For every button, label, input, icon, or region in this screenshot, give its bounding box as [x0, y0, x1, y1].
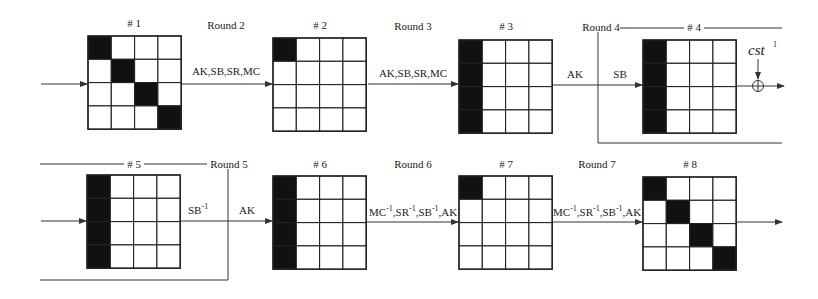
round5-op-sbinv: SB-1 [188, 202, 208, 216]
state-byte [506, 246, 529, 269]
round7-title: Round 7 [578, 158, 616, 170]
state-byte [296, 38, 319, 61]
state-byte [713, 200, 736, 223]
state-grid-6 [273, 176, 366, 269]
state-byte-active [87, 175, 110, 198]
state-grid-4 [643, 40, 736, 133]
state-byte-active [273, 176, 296, 199]
round5-op-sb-text: SB [188, 204, 201, 216]
state-byte [506, 199, 529, 222]
state-byte [506, 110, 529, 133]
state-byte [320, 61, 343, 84]
state-label-4-group: # 4 [684, 20, 704, 33]
state-byte [110, 222, 133, 245]
state-byte [482, 246, 505, 269]
state-byte [111, 83, 134, 106]
state-byte [666, 177, 689, 200]
state-grid-1 [88, 36, 181, 129]
attack-path-diagram: cst 1 # 1 # 2 # 3 # 4 # 5 # 6 # 7 # 8 Ro… [0, 0, 818, 299]
state-byte [273, 61, 296, 84]
state-byte [135, 106, 158, 129]
state-byte [459, 199, 482, 222]
state-byte [690, 177, 713, 200]
state-byte-active [643, 110, 666, 133]
state-byte [88, 83, 111, 106]
state-byte-active [666, 200, 689, 223]
state-byte [529, 223, 552, 246]
state-byte [690, 110, 713, 133]
state-byte [690, 87, 713, 110]
state-byte [506, 87, 529, 110]
state-byte [643, 247, 666, 270]
state-byte [643, 224, 666, 247]
state-byte [643, 200, 666, 223]
state-byte [666, 247, 689, 270]
state-byte [320, 176, 343, 199]
state-byte [296, 108, 319, 131]
state-label-3: # 3 [499, 20, 513, 32]
state-grid-5 [87, 175, 180, 268]
round4-title-group: Round 4 [580, 20, 620, 33]
state-byte [666, 63, 689, 86]
state-label-7: # 7 [499, 158, 513, 170]
state-label-8: # 8 [683, 158, 697, 170]
state-byte [482, 87, 505, 110]
state-byte [482, 223, 505, 246]
state-byte-active [87, 222, 110, 245]
state-byte-active [643, 177, 666, 200]
state-byte [529, 40, 552, 63]
state-byte [343, 61, 366, 84]
state-byte [320, 85, 343, 108]
state-byte [713, 224, 736, 247]
state-byte [158, 83, 181, 106]
round4-op-sb: SB [613, 68, 626, 80]
state-byte [690, 247, 713, 270]
state-byte [506, 223, 529, 246]
state-byte [690, 63, 713, 86]
state-byte [134, 222, 157, 245]
state-byte [529, 63, 552, 86]
state-byte-active [643, 40, 666, 63]
state-grid-8 [643, 177, 736, 270]
state-byte [666, 224, 689, 247]
state-byte-active [643, 87, 666, 110]
state-byte-active [87, 198, 110, 221]
state-byte-active [158, 106, 181, 129]
state-byte [111, 36, 134, 59]
state-byte [713, 110, 736, 133]
state-byte [482, 63, 505, 86]
round4-op-ak: AK [567, 68, 583, 80]
state-byte [529, 246, 552, 269]
state-byte [529, 199, 552, 222]
state-byte-active [88, 36, 111, 59]
state-byte-active [459, 110, 482, 133]
state-byte-active [459, 63, 482, 86]
state-grid-2 [273, 38, 366, 131]
state-byte [666, 87, 689, 110]
state-byte [296, 61, 319, 84]
state-label-4: # 4 [687, 21, 701, 33]
state-byte [506, 176, 529, 199]
state-byte [666, 40, 689, 63]
state-byte [459, 223, 482, 246]
state-byte [666, 110, 689, 133]
state-byte-active [459, 87, 482, 110]
state-byte [529, 176, 552, 199]
state-grid-7 [459, 176, 552, 269]
state-byte [157, 175, 180, 198]
state-byte [273, 85, 296, 108]
state-byte-active [273, 199, 296, 222]
state-byte [296, 246, 319, 269]
state-byte-active [273, 38, 296, 61]
state-byte [296, 176, 319, 199]
state-byte [343, 38, 366, 61]
state-byte [343, 108, 366, 131]
state-byte-active [459, 176, 482, 199]
round5-op-sb-sup: -1 [201, 202, 208, 211]
round5-title-group: Round 5 [207, 157, 248, 170]
state-label-5: # 5 [127, 158, 141, 170]
state-byte [482, 176, 505, 199]
state-byte [320, 246, 343, 269]
state-byte [529, 110, 552, 133]
state-byte [296, 223, 319, 246]
